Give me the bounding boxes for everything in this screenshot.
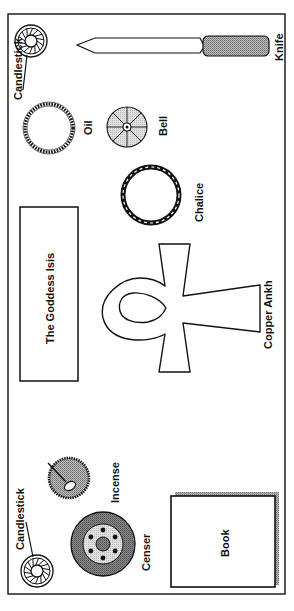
oil-icon bbox=[23, 102, 75, 154]
bell-label: Bell bbox=[157, 116, 169, 136]
goddess-label: The Goddess Isis bbox=[44, 253, 56, 344]
oil-label: Oil bbox=[82, 120, 94, 135]
censer-icon bbox=[71, 512, 135, 576]
censer-hole bbox=[88, 549, 93, 554]
censer-hole bbox=[113, 549, 118, 554]
book-label: Book bbox=[219, 529, 231, 557]
censer-hole bbox=[101, 528, 106, 533]
candlestick-bottom-label: Candlestick bbox=[14, 487, 26, 550]
altar-diagram: Candlestick Knife Oil Bell bbox=[0, 0, 294, 611]
bell-icon bbox=[107, 107, 147, 147]
book: Book bbox=[171, 492, 279, 587]
censer-hole bbox=[113, 535, 118, 540]
knife-label: Knife bbox=[273, 34, 285, 62]
goddess-isis: The Goddess Isis bbox=[20, 207, 78, 381]
censer-hole bbox=[101, 556, 106, 561]
candlestick-top-label: Candlestick bbox=[12, 37, 24, 100]
knife-icon bbox=[77, 36, 269, 56]
ankh-label: Copper Ankh bbox=[262, 280, 274, 349]
censer-hole bbox=[88, 535, 93, 540]
censer-label: Censer bbox=[140, 533, 152, 571]
chalice-label: Chalice bbox=[193, 183, 205, 222]
incense-label: Incense bbox=[109, 462, 121, 503]
chalice-icon bbox=[123, 167, 179, 223]
